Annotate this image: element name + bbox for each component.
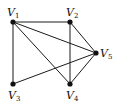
node-v4 [67,81,72,86]
node-label-v2: V2 [66,6,78,20]
graph-diagram: V1V2V3V4V5 [0,0,115,105]
nodes-group [10,19,98,86]
edges-group [13,22,96,84]
node-v2 [67,19,72,24]
node-v5 [93,50,98,55]
node-label-v3: V3 [8,89,20,103]
node-label-v4: V4 [66,89,79,103]
node-label-v1: V1 [7,6,19,20]
node-v3 [10,81,15,86]
edge-v1-v4 [13,22,70,84]
node-v1 [10,19,15,24]
node-label-v5: V5 [100,47,112,61]
